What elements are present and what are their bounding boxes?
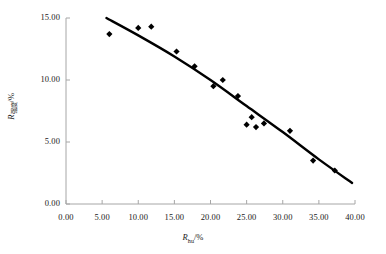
data-point-marker (135, 25, 141, 31)
data-point-marker (148, 24, 154, 30)
y-axis-unit: /% (6, 93, 16, 102)
data-point-marker (249, 114, 255, 120)
x-tick-label: 0.00 (46, 212, 86, 222)
x-tick-label: 5.00 (82, 212, 122, 222)
y-axis-title: R强度/% (6, 78, 19, 134)
data-point-marker (244, 122, 250, 128)
x-axis-title: Rhu/% (0, 232, 386, 244)
data-point-marker (106, 31, 112, 37)
x-tick-label: 40.00 (335, 212, 375, 222)
x-tick-label: 30.00 (263, 212, 303, 222)
x-tick-label: 15.00 (154, 212, 194, 222)
y-axis-symbol: R (6, 114, 16, 119)
data-points (106, 24, 338, 174)
chart-figure: 0.005.0010.0015.000.005.0010.0015.0020.0… (0, 0, 386, 254)
axis-ticks (66, 18, 355, 204)
x-tick-label: 10.00 (118, 212, 158, 222)
x-tick-label: 25.00 (227, 212, 267, 222)
y-tick-label: 10.00 (18, 74, 60, 84)
y-axis-subscript: 强度 (10, 102, 17, 114)
trend-curve (106, 18, 352, 183)
data-point-marker (287, 128, 293, 134)
y-tick-label: 5.00 (18, 136, 60, 146)
data-point-marker (220, 77, 226, 83)
data-point-marker (173, 48, 179, 54)
y-tick-label: 0.00 (18, 198, 60, 208)
axes-group (66, 18, 355, 204)
data-point-marker (253, 124, 259, 130)
x-axis-unit: /% (194, 232, 203, 242)
x-tick-label: 35.00 (299, 212, 339, 222)
data-point-marker (310, 158, 316, 164)
y-tick-label: 15.00 (18, 12, 60, 22)
trend-line (106, 18, 352, 183)
x-tick-label: 20.00 (191, 212, 231, 222)
